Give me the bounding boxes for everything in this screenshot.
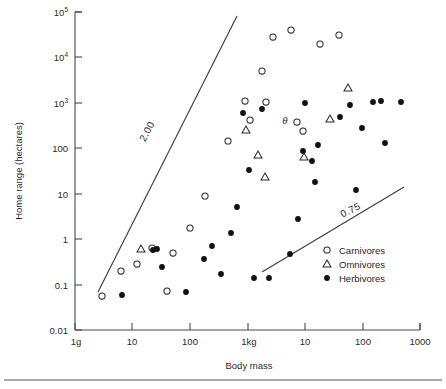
data-point (218, 271, 224, 277)
data-point (164, 288, 170, 294)
slope-label-2-00: 2.00 (137, 119, 157, 143)
x-tick-label-2: 100 (182, 336, 198, 347)
y-axis-tick-labels: 105 104 103 100 10 1 0.1 0.01 (50, 6, 69, 336)
figure-container: 105 104 103 100 10 1 0.1 0.01 1g 10 100 … (0, 0, 446, 389)
data-point (353, 187, 359, 193)
x-axis-tick-labels: 1g 10 100 1kg 10 100 1000 (71, 336, 431, 347)
data-point (228, 230, 234, 236)
data-point (359, 125, 365, 131)
data-point (247, 117, 253, 123)
theta-symbol-annotation: θ (282, 114, 288, 126)
y-tick-label-1: 104 (54, 51, 69, 63)
data-point (118, 268, 124, 274)
data-point (288, 27, 294, 33)
data-point (300, 148, 306, 154)
scatter-plot-svg: 105 104 103 100 10 1 0.1 0.01 1g 10 100 … (0, 0, 446, 389)
data-point (378, 98, 384, 104)
x-tick-label-0: 1g (71, 336, 82, 347)
data-point (309, 158, 315, 164)
data-point (398, 99, 404, 105)
data-point (347, 102, 353, 108)
data-point (225, 138, 231, 144)
legend: Carnivores Omnivores Herbivores (323, 245, 385, 284)
x-tick-label-6: 1000 (409, 336, 430, 347)
data-point (119, 292, 125, 298)
legend-item-herbivores: Herbivores (324, 273, 385, 284)
slope-label-0-75: 0.75 (339, 200, 363, 219)
data-point (315, 142, 321, 148)
data-point (242, 98, 248, 104)
data-point (287, 251, 293, 257)
data-point (295, 216, 301, 222)
y-tick-label-6: 0.1 (55, 280, 68, 291)
data-point (259, 68, 265, 74)
y-tick-label-5: 1 (63, 234, 68, 245)
data-point (170, 250, 176, 256)
data-point (259, 106, 265, 112)
data-point (202, 193, 208, 199)
data-point (251, 275, 257, 281)
data-point (254, 151, 262, 158)
data-point (99, 293, 105, 299)
series-omnivores (137, 84, 352, 252)
data-point (270, 34, 276, 40)
legend-label-herbivores: Herbivores (339, 273, 385, 284)
x-tick-label-4: 10 (300, 336, 311, 347)
legend-marker-filled-circle-icon (324, 275, 330, 281)
data-point (317, 41, 323, 47)
data-point (159, 264, 165, 270)
data-point (187, 225, 193, 231)
data-point (137, 245, 145, 252)
x-tick-label-1: 10 (127, 336, 138, 347)
data-point (134, 261, 140, 267)
data-point (183, 289, 189, 295)
data-point (294, 119, 300, 125)
data-point (154, 246, 160, 252)
data-point (337, 114, 343, 120)
data-point (234, 204, 240, 210)
y-tick-label-2: 103 (54, 97, 69, 109)
data-point (263, 99, 269, 105)
legend-label-omnivores: Omnivores (339, 259, 385, 270)
slope-line-2-00 (98, 16, 237, 292)
data-point (312, 179, 318, 185)
data-point (261, 173, 269, 180)
legend-item-carnivores: Carnivores (324, 245, 385, 256)
data-point (344, 84, 352, 91)
legend-marker-open-triangle-icon (323, 260, 331, 267)
data-point (242, 126, 250, 133)
data-point (300, 153, 308, 160)
data-point (370, 99, 376, 105)
x-axis-title: Body mass (226, 360, 273, 371)
data-point (209, 243, 215, 249)
data-point (382, 140, 388, 146)
y-axis-title: Home range (hectares) (13, 122, 24, 220)
x-tick-label-3: 1kg (241, 336, 256, 347)
data-point (201, 256, 207, 262)
y-tick-label-0: 105 (54, 6, 69, 18)
y-tick-label-4: 10 (57, 189, 68, 200)
data-point (336, 32, 342, 38)
legend-marker-open-circle-icon (324, 247, 330, 253)
data-point (300, 128, 306, 134)
data-point (246, 167, 252, 173)
legend-label-carnivores: Carnivores (339, 245, 385, 256)
data-point (240, 110, 246, 116)
x-tick-label-5: 100 (355, 336, 371, 347)
legend-item-omnivores: Omnivores (323, 259, 385, 270)
y-tick-label-7: 0.01 (50, 325, 69, 336)
y-axis-ticks (75, 12, 82, 330)
data-point (302, 100, 308, 106)
x-axis-ticks (75, 323, 420, 330)
data-point (326, 115, 334, 122)
series-carnivores (99, 27, 342, 299)
y-tick-label-3: 100 (52, 143, 68, 154)
data-point (266, 275, 272, 281)
